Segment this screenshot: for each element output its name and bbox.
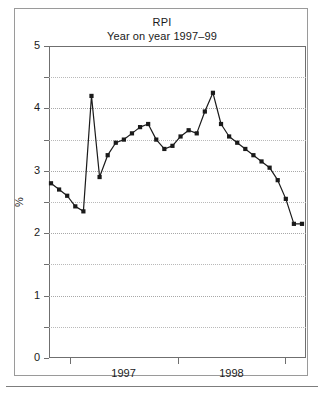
plot-area: 012345 19971998 %	[49, 46, 306, 358]
data-point-marker	[73, 204, 77, 208]
data-point-marker	[259, 159, 263, 163]
data-point-marker	[195, 131, 199, 135]
y-axis-tick-label: 3	[34, 165, 40, 176]
data-point-marker	[178, 134, 182, 138]
x-axis-tick	[178, 358, 179, 364]
data-point-marker	[65, 194, 69, 198]
series-line-rpi	[49, 46, 306, 358]
data-point-marker	[292, 222, 296, 226]
data-point-marker	[57, 187, 61, 191]
data-point-marker	[235, 141, 239, 145]
figure-frame: RPI Year on year 1997–99 012345 19971998…	[14, 8, 308, 376]
data-point-marker	[243, 147, 247, 151]
data-point-marker	[122, 138, 126, 142]
data-point-marker	[114, 141, 118, 145]
data-point-marker	[211, 91, 215, 95]
data-point-marker	[130, 131, 134, 135]
x-axis-category-label: 1998	[219, 367, 243, 379]
series-polyline	[51, 93, 302, 224]
footer-rule	[6, 386, 318, 387]
y-axis-tick-label: 0	[34, 352, 40, 363]
data-point-marker	[138, 125, 142, 129]
x-axis-category-label: 1997	[111, 367, 135, 379]
data-point-marker	[268, 166, 272, 170]
data-point-marker	[170, 144, 174, 148]
chart-subtitle: Year on year 1997–99	[15, 29, 309, 43]
figure-page: RPI Year on year 1997–99 012345 19971998…	[0, 0, 324, 399]
data-point-marker	[49, 181, 53, 185]
data-point-marker	[203, 109, 207, 113]
y-axis-label: %	[13, 197, 25, 207]
data-point-marker	[162, 147, 166, 151]
data-point-marker	[146, 122, 150, 126]
data-point-marker	[276, 178, 280, 182]
data-point-marker	[89, 94, 93, 98]
data-point-marker	[81, 209, 85, 213]
data-point-marker	[219, 122, 223, 126]
data-point-marker	[227, 134, 231, 138]
x-axis-tick	[285, 358, 286, 364]
data-point-marker	[106, 153, 110, 157]
x-axis-tick	[70, 358, 71, 364]
data-point-marker	[154, 138, 158, 142]
data-point-marker	[251, 153, 255, 157]
data-point-marker	[187, 128, 191, 132]
y-axis-tick-label: 5	[34, 40, 40, 51]
y-axis-tick-label: 4	[34, 102, 40, 113]
data-point-marker	[300, 222, 304, 226]
data-point-marker	[284, 197, 288, 201]
chart-title: RPI	[15, 15, 309, 29]
y-axis-tick	[44, 358, 49, 359]
data-point-marker	[97, 175, 101, 179]
y-axis-tick-label: 1	[34, 290, 40, 301]
title-block: RPI Year on year 1997–99	[15, 15, 309, 43]
y-axis-tick-label: 2	[34, 227, 40, 238]
